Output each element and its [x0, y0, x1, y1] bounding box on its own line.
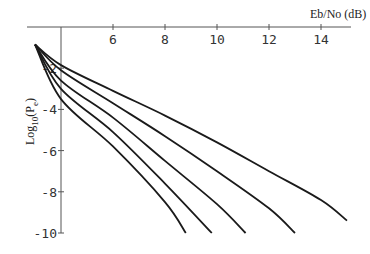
x-tick-label: 10 — [209, 32, 225, 47]
x-tick-label: 8 — [161, 32, 169, 47]
y-axis-title: Log10(Pe) — [23, 98, 40, 145]
series-curve-4 — [35, 45, 212, 233]
x-tick-label: 12 — [261, 32, 277, 47]
series-curve-5 — [35, 45, 186, 233]
y-tick-label: -8 — [41, 185, 57, 200]
x-tick-label: 6 — [109, 32, 117, 47]
y-tick-label: -4 — [41, 102, 57, 117]
y-tick-label: -6 — [41, 144, 57, 159]
chart: 68101214-2-4-6-8-10 Eb/No (dB) Log10(Pe) — [0, 0, 370, 254]
series-curve-1 — [35, 45, 347, 221]
x-axis-title: Eb/No (dB) — [310, 7, 366, 21]
x-tick-label: 14 — [313, 32, 329, 47]
curves — [35, 45, 347, 233]
y-tick-label: -10 — [34, 226, 57, 241]
series-curve-3 — [35, 45, 246, 233]
